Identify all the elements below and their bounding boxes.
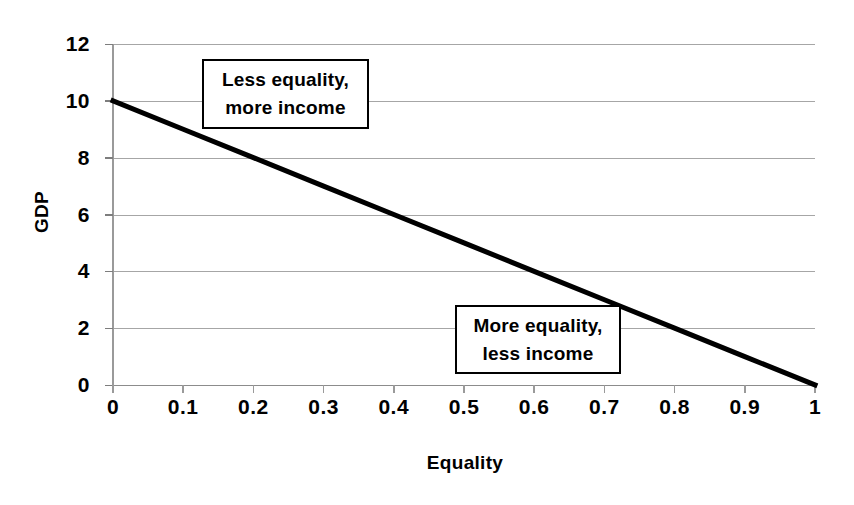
x-tick-label: 0.2	[238, 396, 269, 417]
x-tick-label: 0	[107, 396, 119, 417]
x-tick-mark	[323, 385, 325, 393]
gridline	[113, 44, 815, 45]
x-tick-mark	[604, 385, 606, 393]
y-tick-mark	[105, 271, 113, 273]
annotation-more-equality: More equality, less income	[455, 305, 621, 374]
x-tick-label: 0.1	[168, 396, 199, 417]
annotation-line-1: Less equality,	[222, 66, 349, 94]
gridline	[113, 215, 815, 216]
y-tick-mark	[105, 328, 113, 330]
annotation-line-1: More equality,	[473, 312, 602, 340]
y-tick-mark	[105, 157, 113, 159]
y-tick-label: 4	[24, 260, 90, 281]
y-tick-label: 8	[24, 147, 90, 168]
annotation-line-2: more income	[225, 94, 345, 122]
x-tick-label: 0.4	[378, 396, 409, 417]
x-tick-mark	[533, 385, 535, 393]
y-tick-label: 2	[24, 317, 90, 338]
x-tick-mark	[463, 385, 465, 393]
gridline	[113, 271, 815, 272]
x-tick-mark	[253, 385, 255, 393]
y-tick-mark	[105, 44, 113, 46]
x-axis-title: Equality	[427, 452, 503, 474]
x-tick-label: 0.8	[659, 396, 690, 417]
annotation-less-equality: Less equality, more income	[202, 59, 369, 129]
x-tick-label: 0.7	[589, 396, 620, 417]
x-tick-label: 0.9	[729, 396, 760, 417]
y-tick-label: 12	[24, 33, 90, 54]
gridline	[113, 158, 815, 159]
y-tick-label: 0	[24, 374, 90, 395]
x-tick-label: 1	[809, 396, 821, 417]
x-tick-label: 0.3	[308, 396, 339, 417]
x-tick-label: 0.5	[449, 396, 480, 417]
y-tick-label: 10	[24, 90, 90, 111]
x-tick-mark	[112, 385, 114, 393]
y-axis-title: GDP	[31, 191, 53, 233]
annotation-line-2: less income	[483, 340, 594, 368]
x-tick-mark	[814, 385, 816, 393]
y-tick-mark	[105, 214, 113, 216]
chart-container: 024681012 00.10.20.30.40.50.60.70.80.91 …	[0, 0, 854, 505]
y-tick-mark	[105, 100, 113, 102]
x-tick-mark	[744, 385, 746, 393]
x-tick-mark	[674, 385, 676, 393]
x-tick-mark	[393, 385, 395, 393]
x-tick-mark	[182, 385, 184, 393]
x-tick-label: 0.6	[519, 396, 550, 417]
